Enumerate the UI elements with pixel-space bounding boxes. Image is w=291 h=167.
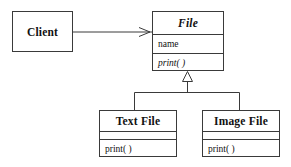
open-arrowhead-icon	[139, 28, 150, 37]
class-attribute-file-name: name	[153, 34, 223, 53]
class-box-text-file[interactable]: Text File print( )	[99, 110, 177, 157]
class-operation-image-file-print: print( )	[203, 139, 279, 157]
uml-class-diagram: Client File name print( ) Text File prin…	[0, 0, 291, 167]
class-attributes-image-file-empty	[203, 131, 279, 139]
class-box-file[interactable]: File name print( )	[152, 11, 224, 71]
class-name-client: Client	[13, 12, 72, 51]
class-box-client[interactable]: Client	[12, 11, 73, 52]
class-operation-text-file-print: print( )	[100, 139, 176, 157]
class-box-image-file[interactable]: Image File print( )	[202, 110, 280, 157]
class-name-text-file: Text File	[100, 111, 176, 131]
class-attributes-text-file-empty	[100, 131, 176, 139]
class-operation-file-print: print( )	[153, 53, 223, 71]
association-client-to-file	[73, 28, 152, 37]
generalization-tree	[135, 72, 240, 111]
hollow-triangle-icon	[183, 72, 193, 82]
class-name-file: File	[153, 12, 223, 34]
class-name-image-file: Image File	[203, 111, 279, 131]
